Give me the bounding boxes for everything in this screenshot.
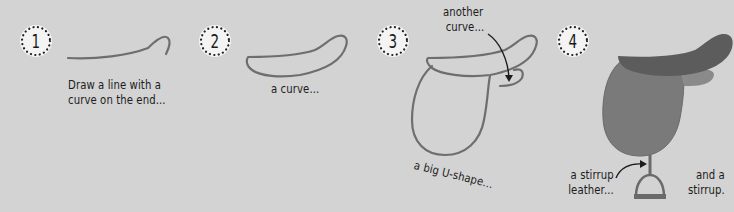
step-4-right-caption-line-2: stirrup. bbox=[685, 183, 724, 198]
saddle-seat bbox=[618, 34, 733, 76]
tutorial-canvas: 1 Draw a line with a curve on the end...… bbox=[0, 0, 734, 212]
step-4-left-caption: a stirrup leather... bbox=[568, 168, 614, 198]
step-4-saddle-colored bbox=[0, 0, 734, 212]
step-4-left-caption-line-1: a stirrup bbox=[568, 168, 614, 183]
stirrup bbox=[636, 175, 664, 196]
curved-arrow-icon bbox=[616, 160, 647, 178]
step-4-right-caption-line-1: and a bbox=[685, 168, 724, 183]
step-4-right-caption: and a stirrup. bbox=[685, 168, 724, 198]
saddle-flap bbox=[603, 62, 684, 156]
step-4-left-caption-line-2: leather... bbox=[568, 183, 614, 198]
